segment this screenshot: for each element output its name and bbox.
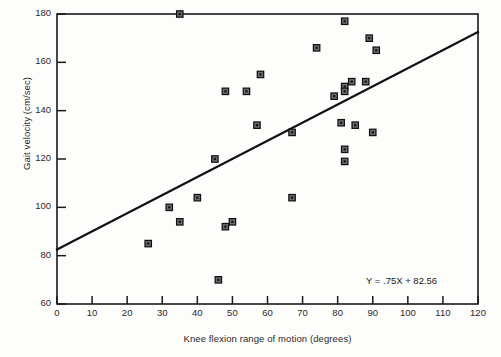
data-point (177, 11, 183, 17)
x-tick-label-40: 40 (177, 307, 217, 318)
y-tick-label-180: 180 (17, 7, 51, 18)
data-point (352, 122, 358, 128)
data-point (243, 88, 249, 94)
y-tick-label-100: 100 (17, 200, 51, 211)
y-tick-label-160: 160 (17, 55, 51, 66)
y-tick-label-80: 80 (17, 249, 51, 260)
data-point (341, 18, 347, 24)
data-point (194, 194, 200, 200)
x-tick-label-60: 60 (248, 307, 288, 318)
data-point (229, 219, 235, 225)
y-tick-label-120: 120 (17, 152, 51, 163)
x-axis-ticks (57, 296, 478, 304)
data-point (366, 35, 372, 41)
y-tick-label-140: 140 (17, 104, 51, 115)
plot-frame (57, 14, 478, 304)
data-point (254, 122, 260, 128)
data-point (341, 146, 347, 152)
data-point (215, 277, 221, 283)
x-tick-label-100: 100 (388, 307, 428, 318)
data-point (145, 240, 151, 246)
data-point (212, 156, 218, 162)
x-tick-label-0: 0 (37, 307, 77, 318)
data-point (222, 88, 228, 94)
y-axis-ticks (57, 14, 66, 304)
data-point (363, 78, 369, 84)
plot-canvas (0, 0, 501, 357)
data-point (370, 129, 376, 135)
data-point (257, 71, 263, 77)
data-point (289, 129, 295, 135)
x-tick-label-90: 90 (353, 307, 393, 318)
x-tick-label-120: 120 (458, 307, 498, 318)
x-tick-label-20: 20 (107, 307, 147, 318)
x-axis-label: Knee flexion range of motion (degrees) (57, 333, 478, 344)
x-tick-label-50: 50 (212, 307, 252, 318)
x-tick-label-70: 70 (283, 307, 323, 318)
x-tick-label-30: 30 (142, 307, 182, 318)
data-point (331, 93, 337, 99)
regression-line (57, 32, 478, 250)
regression-equation-annotation: Y = .75X + 82.56 (366, 275, 437, 286)
data-point (341, 88, 347, 94)
data-point (373, 47, 379, 53)
data-point (349, 78, 355, 84)
x-tick-label-80: 80 (318, 307, 358, 318)
data-point (341, 158, 347, 164)
data-point-group (145, 11, 379, 283)
data-point (338, 120, 344, 126)
x-tick-label-10: 10 (72, 307, 112, 318)
data-point (289, 194, 295, 200)
y-axis-label: Gait velocity (cm/sec) (21, 54, 32, 194)
data-point (177, 219, 183, 225)
data-point (313, 45, 319, 51)
data-point (166, 204, 172, 210)
data-point (222, 223, 228, 229)
x-tick-label-110: 110 (423, 307, 463, 318)
scatter-plot-figure: Gait velocity (cm/sec) Knee flexion rang… (0, 0, 501, 357)
